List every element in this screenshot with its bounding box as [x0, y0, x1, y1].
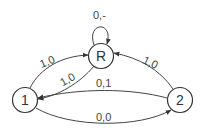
edge-2-to-R: 1,0	[114, 53, 173, 89]
edge-label: 1,0	[38, 53, 57, 70]
edge-label: 0,-	[93, 9, 106, 21]
node-label: R	[96, 48, 106, 64]
edge-label: 1,0	[58, 70, 77, 88]
edge-label: 0,1	[96, 77, 111, 89]
node-label: 1	[21, 92, 29, 108]
edge-label: 0,0	[96, 111, 111, 123]
edge-1-to-2: 0,0	[36, 108, 171, 123]
node-label: 2	[176, 92, 184, 108]
edge-1-to-R: 1,0	[30, 53, 88, 88]
edge-R-to-R: 0,-	[93, 9, 109, 45]
edge-2-to-1: 0,1	[38, 77, 167, 98]
edge-R-to-1: 1,0	[38, 66, 94, 99]
state-node-1: 1	[13, 88, 38, 113]
state-node-R: R	[89, 44, 114, 69]
state-node-2: 2	[168, 88, 193, 113]
edge-label: 1,0	[141, 54, 160, 71]
state-diagram: 0,- 1,0 1,0 1,0 0,1 0,0 R 1 2	[0, 0, 205, 135]
